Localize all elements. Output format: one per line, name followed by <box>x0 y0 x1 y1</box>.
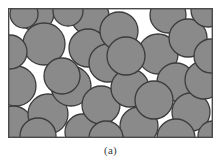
grain-circle <box>44 58 80 94</box>
microstructure-panel <box>8 8 213 138</box>
microstructure-figure: (a) <box>0 0 221 166</box>
grain-circle <box>135 81 173 119</box>
microstructure-diagram <box>8 8 213 138</box>
figure-caption: (a) <box>0 143 221 157</box>
grain-circle <box>107 37 145 75</box>
